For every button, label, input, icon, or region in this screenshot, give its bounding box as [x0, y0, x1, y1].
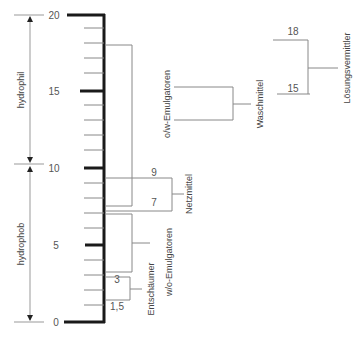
- loesungsvermittler-label: Lösungsvermittler: [342, 32, 352, 103]
- category-brackets: [106, 40, 338, 300]
- waschmittel-label: Waschmittel: [255, 80, 265, 129]
- tick-label-5: 5: [53, 240, 59, 251]
- tick-label-20: 20: [48, 10, 60, 21]
- hydrophil-label: hydrophil: [16, 72, 26, 109]
- marker-9: 9: [151, 167, 157, 178]
- marker-15: 15: [287, 83, 299, 94]
- wo-emulgatoren-label: w/o-Emulgatoren: [164, 228, 174, 297]
- hydrophob-label: hydrophob: [16, 223, 26, 266]
- ow-emulgatoren-label: o/w-Emulgatoren: [162, 70, 172, 138]
- hlb-axis: [64, 14, 105, 323]
- tick-label-10: 10: [48, 163, 60, 174]
- netzmittel-label: Netzmittel: [184, 174, 194, 214]
- range-indicators: [14, 15, 44, 322]
- marker-18: 18: [287, 26, 299, 37]
- marker-1-5: 1,5: [110, 301, 124, 312]
- hlb-scale-diagram: hydrophil hydrophob 20 15 10 5 0: [0, 0, 359, 338]
- marker-7: 7: [151, 197, 157, 208]
- tick-label-0: 0: [53, 317, 59, 328]
- entschaeumer-label: Entschäumer: [146, 262, 156, 315]
- tick-label-15: 15: [48, 86, 60, 97]
- marker-3: 3: [114, 274, 120, 285]
